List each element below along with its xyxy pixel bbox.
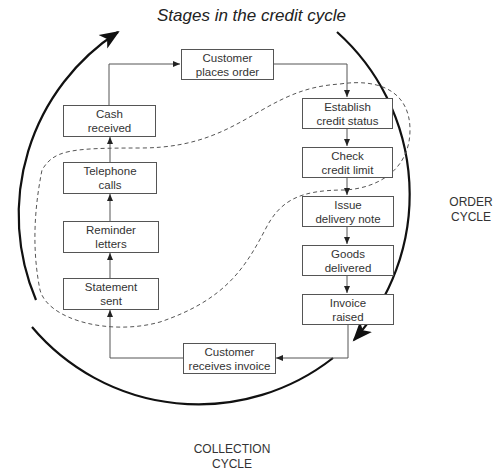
stage-label-line2: credit limit <box>322 163 374 177</box>
order-cycle-line2: CYCLE <box>440 210 502 225</box>
stage-issue-delivery-note: Issue delivery note <box>302 196 394 227</box>
stage-label-line1: Telephone <box>83 164 136 178</box>
stage-label-line1: Customer <box>203 51 253 65</box>
stage-goods-delivered: Goods delivered <box>302 245 394 276</box>
stage-label-line2: delivered <box>325 261 372 275</box>
stage-label-line1: Check <box>331 149 364 163</box>
stage-statement-sent: Statement sent <box>63 278 159 310</box>
stage-label-line1: Customer <box>205 345 255 359</box>
stage-customer-receives-invoice: Customer receives invoice <box>183 343 276 374</box>
order-cycle-label: ORDER CYCLE <box>440 195 502 225</box>
stage-label-line1: Invoice <box>330 296 366 310</box>
stage-label-line1: Issue <box>334 198 362 212</box>
stage-label-line2: places order <box>196 65 259 79</box>
stage-customer-places-order: Customer places order <box>181 49 274 80</box>
stage-invoice-raised: Invoice raised <box>302 294 394 325</box>
stage-label-line2: receives invoice <box>189 359 271 373</box>
credit-cycle-diagram: Stages in the credit cycle Customer plac… <box>0 0 503 476</box>
stage-cash-received: Cash received <box>63 105 156 137</box>
stage-label-line1: Cash <box>96 107 123 121</box>
collection-cycle-line2: CYCLE <box>182 457 282 472</box>
stage-label-line2: calls <box>98 178 121 192</box>
stage-label-line2: delivery note <box>315 212 380 226</box>
stage-label-line2: raised <box>332 310 363 324</box>
stage-label-line2: credit status <box>317 114 379 128</box>
stage-establish-credit-status: Establish credit status <box>302 98 393 129</box>
stage-label-line2: received <box>88 121 131 135</box>
stage-check-credit-limit: Check credit limit <box>302 147 393 178</box>
stage-label-line1: Statement <box>85 280 137 294</box>
diagram-title: Stages in the credit cycle <box>0 6 503 26</box>
stage-label-line2: sent <box>100 294 122 308</box>
stage-label-line1: Establish <box>324 100 371 114</box>
stage-label-line1: Goods <box>331 247 365 261</box>
stage-label-line2: letters <box>95 237 126 251</box>
order-cycle-line1: ORDER <box>440 195 502 210</box>
stage-reminder-letters: Reminder letters <box>63 221 159 253</box>
stage-telephone-calls: Telephone calls <box>63 162 157 194</box>
stage-label-line1: Reminder <box>86 223 136 237</box>
collection-cycle-line1: COLLECTION <box>182 442 282 457</box>
collection-cycle-label: COLLECTION CYCLE <box>182 442 282 472</box>
